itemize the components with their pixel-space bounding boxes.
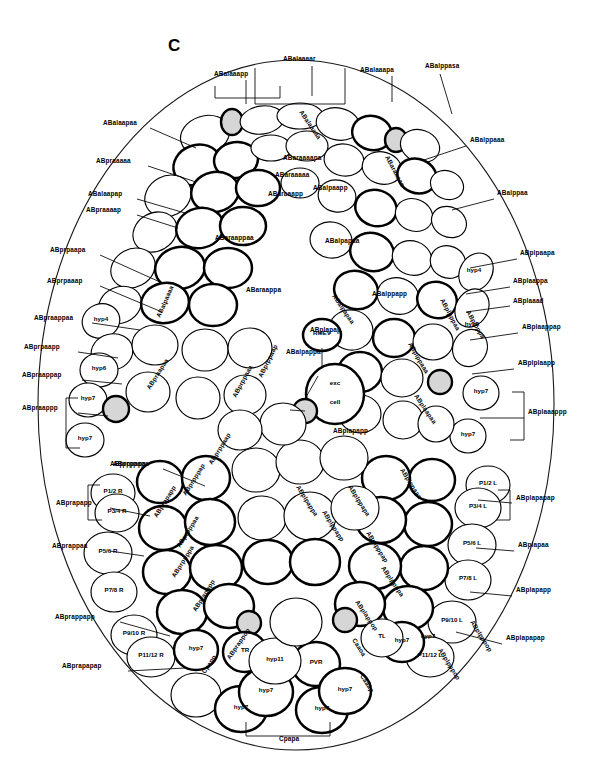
cell-label-outer: ABplaaappp (528, 408, 567, 416)
cell-label-inner: P5/6 L (463, 539, 481, 546)
cell-label-inner: TL (378, 632, 386, 639)
cell-label-outer: ABpraappap (22, 371, 62, 379)
cell-label-outer: ABalaaapp (214, 70, 248, 78)
cell-label-inner: cell (330, 398, 341, 405)
cell-label-outer: ABplapapap (516, 494, 555, 502)
cell-label-outer: ABalaaaar (283, 55, 316, 62)
cell-label-outer: ABpraaaaa (96, 157, 131, 165)
cell-label-outer: ABplpaapa (520, 249, 555, 257)
cell-label-mid: ABaraappaa (215, 234, 254, 242)
cell-label-inner: exc (330, 379, 341, 386)
cell-label-mid: ABaraaapp (268, 190, 303, 198)
embryo-diagram: ABalaapaaABpraaaaaABalaapapABpraaaapABpr… (0, 0, 592, 780)
cell-label-inner: hyp4 (94, 315, 109, 322)
cell-label-inner: hyp4 (467, 266, 482, 273)
cell-label-outer: ABalaapap (88, 190, 122, 198)
cell-label-inner: hyp7 (259, 686, 274, 693)
cell-label-outer: ABalppasa (425, 62, 460, 70)
cell-label-inner: hyp6 (465, 320, 480, 327)
cell-label-mid: Cpapa (279, 735, 300, 743)
figure-panel-c: C (0, 0, 592, 780)
cell-label-mid: ABaraappa (246, 286, 281, 294)
cell-label-outer: ABplapapap (506, 634, 545, 642)
cell-label-outer: ABprappaa (52, 542, 88, 550)
cell-label-inner: hyp7 (315, 704, 330, 711)
cell-label-outer: ABalaaapa (360, 66, 394, 74)
cell-label-mid: ABprppapa (113, 460, 149, 468)
cell-label-mid: ABalpaapp (313, 184, 348, 192)
cell-label-outer: ABplaappap (522, 323, 561, 331)
cell-label-inner: P1/2 R (104, 487, 123, 494)
cell-label-outer: ABprpaaap (47, 277, 82, 285)
cell-label-inner: P11/12 R (138, 651, 164, 658)
cell-label-outer: ABalppaaa (470, 136, 505, 144)
cell-label-outer: ABprpaapa (50, 246, 86, 254)
cell-label-inner: P9/10 R (123, 629, 146, 636)
cell-label-inner: hyp7 (81, 394, 96, 401)
cell-label-outer: ABprapapap (62, 662, 102, 670)
cell-label-inner: hyp7 (461, 430, 476, 437)
cell-label-outer: ABprapapp (56, 499, 92, 507)
cell-label-mid: ABaraaaapa (283, 154, 322, 162)
cell-label-mid: ABalpappa (286, 348, 321, 356)
cell-label-mid: ABaraaaaa (275, 171, 310, 178)
cell-label-outer: ABprappapp (55, 613, 95, 621)
cell-label-inner: hyp7 (421, 632, 436, 639)
cell-label-outer: ABplapapp (516, 586, 551, 594)
cell-label-inner: hyp7 (474, 387, 489, 394)
cell-group-mid-right (326, 266, 499, 453)
cell-label-inner: P7/8 L (459, 574, 477, 581)
cell-label-mid: ABplapapp (333, 427, 368, 435)
cell-label-inner: TR (241, 646, 250, 653)
cell-label-outer: ABalppaa (497, 189, 528, 197)
cell-label-inner: hyp7 (78, 434, 93, 441)
cell-label-inner: P1/2 L (479, 479, 497, 486)
cell-label-inner: P7/8 R (105, 586, 124, 593)
cell-label-outer: ABpraaaap (86, 206, 121, 214)
cell-label-inner: hyp7 (338, 685, 353, 692)
cell-label-mid: ABalppapp (372, 290, 407, 298)
cell-label-inner: P9/10 L (441, 616, 463, 623)
cell-label-inner: P5/6 R (99, 547, 118, 554)
cell-label-inner: RMEV (313, 329, 332, 336)
labels-top: ABalaaappABalaaaarABalaaapaABalppasa (214, 55, 460, 78)
cell-label-inner: P3/4 L (469, 502, 487, 509)
cell-label-inner: hyp7 (395, 636, 410, 643)
cell-label-outer: ABpraappp (22, 404, 58, 412)
cell-label-inner: PVR (310, 658, 323, 665)
cell-label-outer: ABplplaapp (518, 359, 555, 367)
cell-label-inner: P3/4 R (108, 507, 127, 514)
cell-label-inner: P11/12 L (418, 651, 443, 658)
cell-label-outer: ABplaaad (513, 297, 544, 305)
cell-label-outer: ABplapaa (518, 541, 549, 549)
cell-label-outer: ABpraappaa (34, 314, 73, 322)
cell-label-inner: hyp7 (234, 703, 249, 710)
cell-label-outer: ABprpaapp (24, 343, 60, 351)
cell-label-inner: hyp7 (189, 644, 204, 651)
cell-label-inner: hyp11 (266, 655, 284, 662)
cell-label-inner: hyp6 (92, 364, 107, 371)
cell-label-outer: ABalaapaa (103, 119, 137, 127)
cell-label-outer: ABplaappa (513, 277, 548, 285)
cell-label-mid: ABalpapaa (325, 237, 360, 245)
